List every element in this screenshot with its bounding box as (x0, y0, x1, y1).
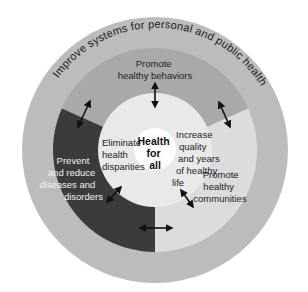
health-diagram: Improve systems for personal and public … (0, 0, 308, 292)
